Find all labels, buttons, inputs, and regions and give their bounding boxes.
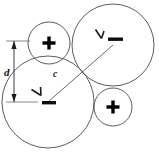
radius-arrowhead-bottom-left-icon [32, 87, 42, 96]
diagram-canvas: d c [0, 0, 159, 156]
plus-sign-bottom-right [107, 101, 120, 114]
plus-sign-top-left [43, 37, 56, 50]
minus-sign-top-right [108, 38, 123, 41]
minus-sign-bottom-left [42, 101, 56, 104]
dimension-arrowhead-up-icon [11, 41, 16, 49]
center-to-center-line [48, 45, 113, 102]
radius-arrowhead-top-right-icon [96, 30, 105, 39]
label-d: d [4, 66, 10, 78]
dimension-arrowhead-down-icon [11, 94, 16, 102]
label-c: c [53, 69, 58, 79]
geometry-diagram: d c [0, 0, 159, 156]
